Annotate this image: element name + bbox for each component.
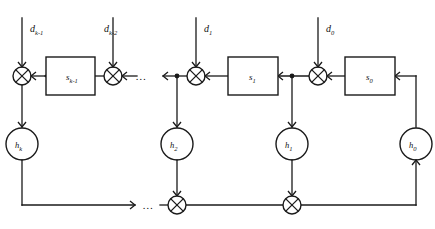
xor-adder-top-2: [104, 67, 122, 85]
box-s-0: s0: [345, 57, 395, 95]
top-ellipsis: …: [135, 70, 147, 82]
xor-adder-bottom-1: [168, 196, 186, 214]
box-s-1: s1: [228, 57, 278, 95]
diagram-canvas: sk-1 s1 s0: [0, 0, 435, 229]
input-label-d-1: d1: [204, 23, 212, 36]
bottom-ellipsis: …: [142, 199, 154, 211]
xor-adder-top-1: [13, 67, 31, 85]
circuit-diagram: sk-1 s1 s0: [0, 0, 435, 229]
box-s-k-1: sk-1: [46, 57, 95, 95]
xor-adder-top-3: [187, 67, 205, 85]
circle-h-0: h0: [400, 128, 432, 160]
input-label-d-k-2: dk-2: [104, 23, 118, 36]
circle-h-2: h2: [161, 128, 193, 160]
circle-h-k: hk: [6, 128, 38, 160]
bottom-rail: [22, 160, 416, 205]
xor-adder-top-4: [309, 67, 327, 85]
xor-adder-bottom-2: [283, 196, 301, 214]
input-label-d-0: d0: [326, 23, 335, 36]
input-label-d-k-1: dk-1: [30, 23, 43, 36]
bottom-xor-input-arrowheads: [173, 191, 296, 196]
h-input-arrowheads: [18, 122, 296, 127]
circle-h-1: h1: [276, 128, 308, 160]
